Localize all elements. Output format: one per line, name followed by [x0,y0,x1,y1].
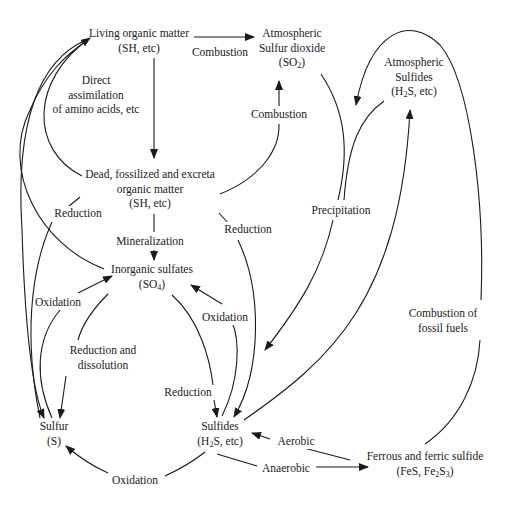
label-direct-assimilation: Direct assimilation of amino acids, etc [52,73,141,117]
arrow-precip-lower [265,220,333,350]
node-ferrous-ferric-sulfide: Ferrous and ferric sulfide (FeS, Fe2S3) [367,449,484,478]
node-sulfides-line2: (H2S, etc) [197,434,243,449]
arrow-sulfates-to-sulfides [172,295,213,385]
node-living-line2: (SH, etc) [89,41,189,56]
node-so2-line3: (SO2) [259,55,325,70]
node-so2-line2: Sulfur dioxide [259,41,325,56]
label-reddiss-line2: dissolution [70,358,137,373]
arrow-reduction-left-line [31,222,52,418]
node-ferrous-line1: Ferrous and ferric sulfide [367,449,484,464]
node-sulfates-line2: (SO4) [111,277,193,292]
node-atmsulf-line1: Atmospheric [384,55,443,70]
label-mineralization: Mineralization [115,234,185,249]
arrow-so2-to-sulfides [321,74,344,200]
label-aerobic: Aerobic [276,434,315,449]
arrow-sulfur-to-sulfates-up [78,276,112,293]
label-combustion-fossil-fuels: Combustion of fossil fuels [408,306,479,335]
atmsulf-formula-post: S, etc) [407,85,436,97]
label-precipitation: Precipitation [311,203,372,218]
arrow-sulfur-to-sulfates-low [40,310,60,418]
arrow-sulfates-to-sulfur-up [78,294,108,340]
node-living-organic-matter: Living organic matter (SH, etc) [89,26,189,55]
label-reduction-mid: Reduction [223,222,272,237]
node-dead-line2: organic matter [85,182,215,197]
arrow-aerobic-head [252,433,270,439]
h2s-formula-pre: (H [197,435,209,447]
arrow-reduction-bottom-head [214,400,217,417]
arrow-sulfides-to-anaerobic [217,454,257,466]
node-inorganic-sulfates: Inorganic sulfates (SO4) [111,262,193,291]
arrow-sulfides-to-sulfates-low [222,322,237,416]
label-oxidation-left: Oxidation [34,295,82,310]
arrow-sulfides-to-sulfur-left [66,446,108,473]
arrow-ferrous-to-aerobic [300,447,350,460]
node-sulfates-line1: Inorganic sulfates [111,262,193,277]
node-dead-organic-matter: Dead, fossilized and excreta organic mat… [85,167,215,211]
label-fossil-line2: fossil fuels [409,321,478,336]
node-atmospheric-sulfides: Atmospheric Sulfides (H2S, etc) [384,55,443,99]
node-ferrous-line2: (FeS, Fe2S3) [367,464,484,479]
fe-formula-pre: (FeS, Fe [396,465,435,477]
label-direct-line1: Direct [53,73,140,88]
node-dead-line3: (SH, etc) [85,196,215,211]
label-direct-line2: assimilation [53,88,140,103]
label-reduction-left: Reduction [53,206,102,221]
label-reduction-bottom: Reduction [163,385,212,400]
node-dead-line1: Dead, fossilized and excreta [85,167,215,182]
node-atmospheric-sulfur-dioxide: Atmospheric Sulfur dioxide (SO2) [259,26,325,70]
h2s-formula-post: S, etc) [213,435,242,447]
label-combustion-top: Combustion [191,45,249,60]
label-anaerobic: Anaerobic [261,461,311,476]
sulfur-cycle-diagram: Living organic matter (SH, etc) Atmosphe… [0,0,511,511]
node-atmsulf-line3: (H2S, etc) [384,84,443,99]
node-so2-line1: Atmospheric [259,26,325,41]
arrow-sulfides-to-sulfates-up [191,285,222,304]
arrow-reduction-mid-line [234,240,256,417]
label-reduction-dissolution: Reduction and dissolution [69,343,138,372]
node-atmsulf-line2: Sulfides [384,70,443,85]
arrow-dead-to-so2 [220,124,279,194]
so4-formula-post: ) [161,278,165,290]
node-sulfur-line1: Sulfur [40,419,69,434]
label-direct-line3: of amino acids, etc [53,102,140,117]
label-fossil-line1: Combustion of [409,306,478,321]
arrow-atmsulf-to-precip [344,101,384,200]
node-sulfides-line1: Sulfides [197,419,243,434]
atmsulf-formula-pre: (H [391,85,403,97]
label-oxidation-right: Oxidation [201,310,249,325]
so2-formula-pre: (SO [279,56,298,68]
arrow-sulfates-to-sulfur-low [60,376,66,418]
node-sulfur-line2: (S) [40,434,69,449]
node-sulfides: Sulfides (H2S, etc) [197,419,243,448]
label-oxidation-bottom: Oxidation [111,473,159,488]
fe-formula-post: ) [450,465,454,477]
so2-formula-post: ) [301,56,305,68]
arrow-fossil-fuels-lower [425,340,480,444]
node-sulfur: Sulfur (S) [40,419,69,448]
label-combustion-mid: Combustion [250,107,308,122]
node-living-line1: Living organic matter [89,26,189,41]
arrow-sulfides-to-sulfur-right [165,452,205,476]
label-reddiss-line1: Reduction and [70,343,137,358]
so4-formula-pre: (SO [139,278,158,290]
